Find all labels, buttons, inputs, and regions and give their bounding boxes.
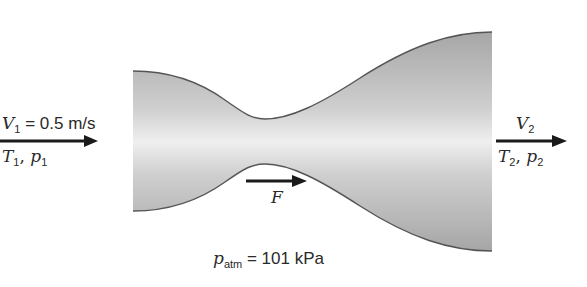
outlet-pressure-symbol: p	[526, 146, 537, 166]
outlet-velocity-subscript: 2	[528, 123, 534, 135]
outlet-temperature-symbol: T	[498, 146, 509, 166]
inlet-velocity-subscript: 1	[14, 123, 20, 135]
ambient-pressure-value: = 101 kPa	[242, 249, 324, 268]
force-arrow-icon	[246, 175, 307, 187]
inlet-state-label: T1, p1	[2, 148, 47, 165]
ambient-pressure-symbol: p	[213, 248, 224, 268]
inlet-state-separator: ,	[19, 146, 30, 166]
outlet-state-separator: ,	[515, 146, 526, 166]
inlet-velocity-symbol: V	[2, 113, 14, 133]
outlet-velocity-symbol: V	[516, 113, 528, 133]
inlet-velocity-label: V1 = 0.5 m/s	[2, 115, 96, 132]
inlet-pressure-subscript: 1	[41, 156, 47, 168]
diagram-canvas	[0, 0, 587, 287]
ambient-pressure-subscript: atm	[224, 258, 242, 270]
inlet-flow-arrow-icon	[0, 135, 98, 147]
inlet-temperature-subscript: 1	[13, 156, 19, 168]
inlet-temperature-symbol: T	[2, 146, 13, 166]
inlet-pressure-symbol: p	[30, 146, 41, 166]
nozzle-body	[133, 32, 492, 251]
outlet-temperature-subscript: 2	[509, 156, 515, 168]
ambient-pressure-label: patm = 101 kPa	[213, 250, 324, 267]
inlet-velocity-value: = 0.5 m/s	[20, 114, 95, 133]
nozzle-diagram: V1 = 0.5 m/s T1, p1 V2 T2, p2 F patm = 1…	[0, 0, 587, 287]
outlet-pressure-subscript: 2	[537, 156, 543, 168]
force-label: F	[271, 189, 283, 206]
outlet-state-label: T2, p2	[498, 148, 543, 165]
outlet-velocity-label: V2	[516, 115, 534, 132]
